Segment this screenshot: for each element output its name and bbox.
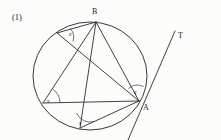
- chord-b-to-a: [96, 22, 139, 101]
- angle-arc-at-c: [53, 89, 61, 103]
- figure-number-label: (1): [12, 12, 22, 22]
- figure-container: (1) B A T x x x x: [0, 0, 221, 140]
- angle-label-at-d: x: [78, 120, 82, 126]
- chord-b-to-d: [80, 22, 96, 128]
- chord-e-to-a: [57, 33, 139, 101]
- point-label-t: T: [178, 31, 183, 40]
- circle-geometry-figure: (1) B A T x x x x: [0, 0, 221, 140]
- point-label-a: A: [143, 103, 149, 112]
- chord-c-to-a: [43, 101, 139, 103]
- angle-label-at-c: x: [46, 98, 50, 104]
- angle-label-at-a: x: [133, 89, 137, 95]
- point-label-b: B: [92, 7, 97, 16]
- main-circle: [33, 22, 147, 130]
- angle-label-at-e: x: [68, 31, 72, 37]
